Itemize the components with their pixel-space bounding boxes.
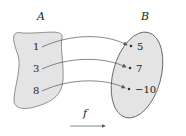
domain-element: 8 bbox=[33, 85, 39, 96]
codomain-element: 5 bbox=[137, 41, 143, 52]
function-label: f bbox=[82, 107, 89, 120]
codomain-dot bbox=[130, 45, 133, 48]
domain-element: 1 bbox=[33, 41, 39, 52]
codomain-dot bbox=[129, 67, 132, 70]
set-a-label: A bbox=[36, 10, 45, 23]
set-b-label: B bbox=[140, 10, 149, 23]
codomain-element: −10 bbox=[135, 84, 156, 95]
function-diagram: A B 1 3 8 5 7 −10 f bbox=[0, 0, 186, 136]
codomain-element: 7 bbox=[136, 63, 142, 74]
codomain-dot bbox=[128, 88, 131, 91]
domain-element: 3 bbox=[33, 63, 39, 74]
